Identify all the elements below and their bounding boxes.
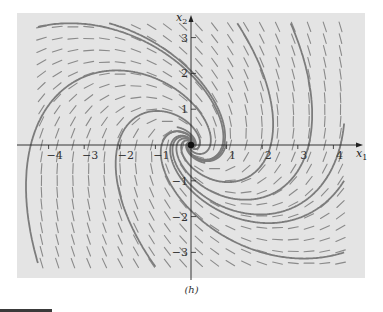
- field-arrow: [84, 50, 94, 51]
- y-tick-label: 2: [181, 67, 188, 80]
- x-tick-label: −2: [118, 149, 134, 162]
- x-tick-label: 2: [265, 149, 272, 162]
- x-tick-label: −3: [82, 149, 98, 162]
- field-arrow: [131, 86, 141, 87]
- y-tick-label: 3: [181, 32, 188, 45]
- x2-sub: 2: [182, 17, 187, 26]
- x-tick-label: −4: [46, 149, 62, 162]
- field-arrow: [262, 116, 263, 126]
- field-arrow: [261, 128, 262, 138]
- x1-axis-label: x1: [356, 147, 367, 162]
- field-arrow: [273, 239, 283, 240]
- field-arrow: [88, 175, 89, 185]
- field-arrow: [241, 204, 251, 205]
- x-tick-label: 1: [229, 149, 236, 162]
- y-tick-label: −3: [172, 246, 188, 259]
- field-arrow: [324, 116, 325, 126]
- x-tick-label: 4: [336, 149, 343, 162]
- field-arrow: [288, 239, 298, 240]
- field-arrow: [57, 164, 58, 174]
- x-tick-label: 3: [300, 149, 307, 162]
- y-tick-label: −2: [172, 211, 188, 224]
- field-arrow: [293, 105, 294, 115]
- y-tick-label: 1: [181, 103, 188, 116]
- x-tick-label: −1: [153, 149, 169, 162]
- phase-portrait: −4−3−2−11234−3−2−1123 x1 x2: [0, 0, 383, 312]
- y-tick-label: −1: [172, 175, 188, 188]
- x1-sub: 1: [362, 153, 367, 162]
- figure-caption: (h): [0, 284, 383, 295]
- field-arrow: [324, 93, 325, 103]
- equilibrium-point: [188, 142, 194, 148]
- field-arrow: [120, 164, 121, 174]
- field-arrow: [99, 50, 109, 51]
- field-arrow: [57, 187, 58, 197]
